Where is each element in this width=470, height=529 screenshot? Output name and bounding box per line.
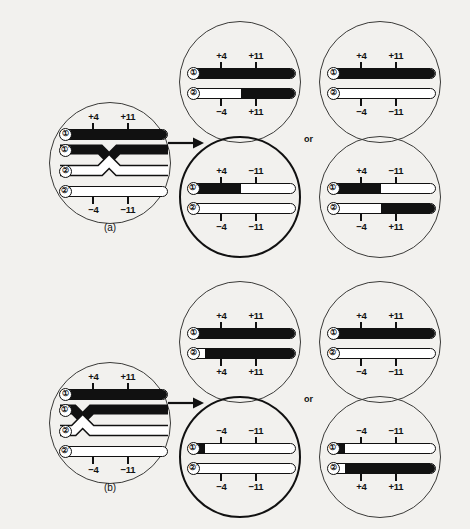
panel-b-parent-strand-2p-marker-bottom-0: −4 xyxy=(88,464,98,475)
outcome-b-1-top-chromatid-2-tick-bottom-1 xyxy=(255,359,257,366)
panel-b-parent-strand-1-tick-top-1 xyxy=(127,383,129,390)
outcome-b-2-top-chromatid-1-bar xyxy=(328,328,436,339)
outcome-a-1-bottom-chromatid-2-bar xyxy=(188,203,296,214)
outcome-a-2-bottom-chromatid-2-marker-bottom-0: −4 xyxy=(356,221,366,232)
outcome-a-1-bottom-chromatid-2-strand-label: ②′ xyxy=(187,202,200,215)
panel-a-parent-strand-2-strand-label: ② xyxy=(59,165,72,178)
outcome-b-2-bottom-chromatid-1-tick-top-1 xyxy=(395,437,397,444)
outcome-a-2-bottom-chromatid-1-bar xyxy=(328,183,436,194)
outcome-a-2-bottom-chromatid-2-bar xyxy=(328,203,436,214)
outcome-a-1-top-chromatid-1-tick-top-0 xyxy=(220,62,222,69)
panel-a-parent-strand-2p-bar xyxy=(60,186,168,197)
outcome-a-1-bottom-chromatid-2-tick-bottom-1 xyxy=(255,214,257,221)
outcome-a-1-bottom-chromatid-1-marker-top-0: +4 xyxy=(216,165,226,176)
panel-a-parent-strand-2p-row: ②′−4−11 xyxy=(60,186,168,197)
outcome-a-1-bottom-chromatid-1-bar xyxy=(188,183,296,194)
panel-a-parent-strand-1p-strand-label: ①′ xyxy=(59,144,72,157)
outcome-b-1-top-chromatid-1-marker-top-0: +4 xyxy=(216,310,226,321)
outcome-b-1-top-circle xyxy=(179,281,301,403)
panel-a-parent-strand-1-segment-dark xyxy=(61,130,168,139)
panel-b-parent-strand-2p-strand-label: ②′ xyxy=(59,445,72,458)
outcome-a-2-bottom-chromatid-2-segment-dark xyxy=(381,204,436,213)
panel-a-parent-crossover xyxy=(60,144,168,188)
outcome-b-1-bottom-chromatid-2-marker-bottom-0: −4 xyxy=(216,481,226,492)
outcome-a-1-top-chromatid-1-row: ①+4+11 xyxy=(188,68,296,79)
outcome-a-1-top-chromatid-1-marker-top-0: +4 xyxy=(216,50,226,61)
outcome-a-1-bottom-chromatid-1-tick-top-1 xyxy=(255,177,257,184)
outcome-b-2-bottom-chromatid-2-segment-dark xyxy=(345,464,436,473)
outcome-b-2-top-chromatid-2-row: ②′−4−11 xyxy=(328,348,436,359)
outcome-a-2-bottom-chromatid-2-tick-bottom-0 xyxy=(360,214,362,221)
outcome-b-2-top-chromatid-2-strand-label: ②′ xyxy=(327,347,340,360)
outcome-a-2-top-chromatid-1-marker-top-1: +11 xyxy=(388,50,403,61)
panel-b-or-label: or xyxy=(304,394,313,404)
outcome-a-2-bottom-circle xyxy=(319,136,441,258)
outcome-a-1-top-circle xyxy=(179,21,301,143)
panel-a-parent-strand-1-tick-top-0 xyxy=(92,123,94,130)
outcome-b-1-bottom-chromatid-2-bar xyxy=(188,463,296,474)
panel-a-parent-strand-2p-marker-bottom-1: −11 xyxy=(120,204,135,215)
outcome-b-1-bottom-chromatid-2-marker-bottom-1: −11 xyxy=(248,481,263,492)
outcome-a-1-bottom-circle xyxy=(179,136,301,258)
panel-a-parent-strand-2p-marker-bottom-0: −4 xyxy=(88,204,98,215)
panel-b-parent-strand-1p-strand-label: ①′ xyxy=(59,404,72,417)
outcome-a-2-top-chromatid-1-segment-dark xyxy=(329,69,436,78)
outcome-b-2-top-circle xyxy=(319,281,441,403)
outcome-b-1-bottom-chromatid-2-tick-bottom-1 xyxy=(255,474,257,481)
panel-a-arrow xyxy=(168,136,204,150)
outcome-a-1-top-chromatid-1-segment-dark xyxy=(189,69,296,78)
panel-b-parent-strand-1-segment-dark xyxy=(61,390,168,399)
panel-b-parent-strand-2p-bar xyxy=(60,446,168,457)
outcome-a-1-top-chromatid-1-tick-top-1 xyxy=(255,62,257,69)
outcome-b-2-top-chromatid-1-tick-top-1 xyxy=(395,322,397,329)
outcome-a-2-top-chromatid-1-tick-top-1 xyxy=(395,62,397,69)
panel-a-parent-strand-1-row: ①+4+11 xyxy=(60,129,168,140)
outcome-a-2-bottom-chromatid-1-tick-top-1 xyxy=(395,177,397,184)
outcome-b-1-top-chromatid-2-tick-bottom-0 xyxy=(220,359,222,366)
outcome-a-2-bottom-chromatid-1-marker-top-0: +4 xyxy=(356,165,366,176)
outcome-a-2-bottom-chromatid-2-tick-bottom-1 xyxy=(395,214,397,221)
outcome-a-1-top-chromatid-2-row: ②−4+11 xyxy=(188,88,296,99)
panel-a-or-label: or xyxy=(304,134,313,144)
panel-a-parent-strand-1-marker-top-1: +11 xyxy=(120,111,135,122)
panel-b-parent-strand-1-row: ①+4+11 xyxy=(60,389,168,400)
outcome-a-2-top-chromatid-2-row: ②−4−11 xyxy=(328,88,436,99)
outcome-a-2-top-circle xyxy=(319,21,441,143)
outcome-b-1-bottom-chromatid-1-row: ①′−4−11 xyxy=(188,443,296,454)
outcome-b-1-top-chromatid-2-row: ②+4+11 xyxy=(188,348,296,359)
outcome-b-2-bottom-chromatid-2-row: ②+4+11 xyxy=(328,463,436,474)
outcome-b-1-top-chromatid-1-tick-top-0 xyxy=(220,322,222,329)
outcome-b-2-bottom-chromatid-1-bar xyxy=(328,443,436,454)
panel-b-parent-strand-1-bar xyxy=(60,389,168,400)
outcome-a-1-bottom-chromatid-1-strand-label: ①′ xyxy=(187,182,200,195)
outcome-a-1-top-chromatid-2-tick-bottom-1 xyxy=(255,99,257,106)
panel-b-parent-strand-1-tick-top-0 xyxy=(92,383,94,390)
panel-a-caption: (a) xyxy=(104,222,116,233)
panel-b-parent-strand-2p-marker-bottom-1: −11 xyxy=(120,464,135,475)
outcome-b-1-bottom-chromatid-2-strand-label: ②′ xyxy=(187,462,200,475)
outcome-a-2-bottom-chromatid-2-strand-label: ② xyxy=(327,202,340,215)
outcome-a-2-top-chromatid-2-marker-bottom-1: −11 xyxy=(388,106,403,117)
outcome-b-1-bottom-chromatid-1-bar xyxy=(188,443,296,454)
outcome-b-1-top-chromatid-1-strand-label: ① xyxy=(187,327,200,340)
outcome-a-2-top-chromatid-2-tick-bottom-1 xyxy=(395,99,397,106)
outcome-b-1-top-chromatid-1-row: ①+4+11 xyxy=(188,328,296,339)
outcome-a-1-bottom-chromatid-2-marker-bottom-1: −11 xyxy=(248,221,263,232)
outcome-b-1-bottom-chromatid-1-marker-top-0: −4 xyxy=(216,425,226,436)
outcome-b-2-bottom-chromatid-1-marker-top-1: −11 xyxy=(388,425,403,436)
outcome-b-1-top-chromatid-2-bar xyxy=(188,348,296,359)
outcome-a-2-bottom-chromatid-1-row: ①′+4−11 xyxy=(328,183,436,194)
outcome-b-1-bottom-chromatid-1-tick-top-0 xyxy=(220,437,222,444)
outcome-b-1-top-chromatid-2-marker-bottom-1: +11 xyxy=(248,366,263,377)
outcome-a-1-top-chromatid-2-segment-dark xyxy=(241,89,296,98)
panel-a-parent-strand-2p-tick-bottom-0 xyxy=(92,197,94,204)
outcome-b-1-top-chromatid-1-tick-top-1 xyxy=(255,322,257,329)
outcome-b-2-top-chromatid-2-bar xyxy=(328,348,436,359)
outcome-a-1-top-chromatid-2-bar xyxy=(188,88,296,99)
outcome-b-2-bottom-chromatid-2-tick-bottom-1 xyxy=(395,474,397,481)
outcome-a-1-bottom-chromatid-2-row: ②′−4−11 xyxy=(188,203,296,214)
outcome-b-2-bottom-chromatid-2-strand-label: ② xyxy=(327,462,340,475)
outcome-b-2-top-chromatid-1-row: ①+4+11 xyxy=(328,328,436,339)
outcome-a-2-top-chromatid-2-tick-bottom-0 xyxy=(360,99,362,106)
outcome-b-1-bottom-chromatid-2-row: ②′−4−11 xyxy=(188,463,296,474)
